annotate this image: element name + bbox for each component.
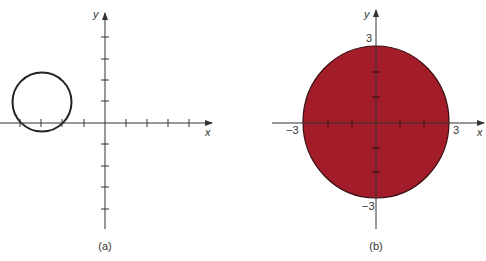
figure-canvas: x y (a) −3 3 3 −3 x y (b) — [0, 0, 486, 261]
tick-label-x-neg3: −3 — [286, 124, 299, 136]
tick-label-x-pos3: 3 — [453, 124, 459, 136]
tick-label-y-neg3: −3 — [362, 200, 375, 212]
x-axis-label-a: x — [204, 126, 211, 138]
caption-a: (a) — [98, 240, 111, 252]
tick-label-y-pos3: 3 — [366, 32, 372, 44]
caption-b: (b) — [369, 240, 382, 252]
x-axis-label-b: x — [476, 126, 483, 138]
figure-b: −3 3 3 −3 x y (b) — [272, 8, 484, 252]
y-axis-label-b: y — [363, 8, 371, 20]
figure-a: x y (a) — [0, 8, 212, 252]
y-axis-label-a: y — [92, 8, 100, 20]
